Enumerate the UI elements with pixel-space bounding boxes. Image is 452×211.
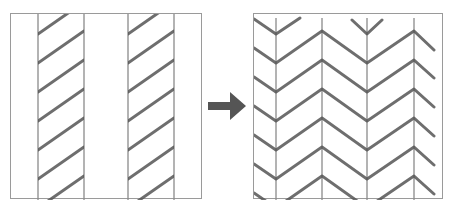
after-panel: [253, 13, 443, 199]
herringbone-chevron-pattern: [254, 14, 444, 200]
figure-caption: [140, 0, 320, 3]
diagonal-hatch-stripes: [11, 14, 203, 200]
right-arrow-icon: [208, 90, 248, 122]
before-panel: [10, 13, 202, 199]
